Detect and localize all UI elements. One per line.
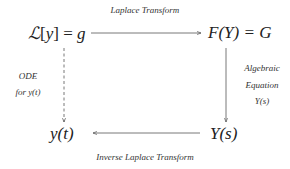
var-g: g xyxy=(77,24,86,43)
node-y-of-t: y(t) xyxy=(50,124,74,144)
node-Y-of-s: Y(s) xyxy=(210,124,237,144)
bracket-close: ] xyxy=(53,24,59,43)
label-inverse-laplace-transform: Inverse Laplace Transform xyxy=(80,152,210,162)
label-ode: ODE for y(t) xyxy=(10,68,46,100)
label-ode-line1: ODE xyxy=(10,68,46,84)
label-algebraic-line2: Equation xyxy=(240,77,284,94)
label-laplace-transform: Laplace Transform xyxy=(95,5,195,15)
node-laplace-of-y: ℒ[y] = g xyxy=(28,23,85,44)
label-algebraic-equation: Algebraic Equation Y(s) xyxy=(240,60,284,110)
laplace-operator: ℒ xyxy=(28,24,40,43)
label-ode-line2: for y(t) xyxy=(10,84,46,100)
label-algebraic-line1: Algebraic xyxy=(240,60,284,77)
label-algebraic-line3: Y(s) xyxy=(240,93,284,110)
equals-sign: = xyxy=(63,24,73,43)
node-F-of-Y: F(Y) = G xyxy=(208,23,271,43)
